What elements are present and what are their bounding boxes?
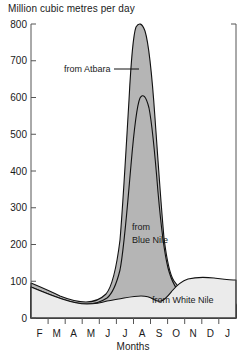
x-tick-label-10: N bbox=[190, 328, 197, 339]
x-tick-label-1: F bbox=[36, 328, 42, 339]
y-tick-label-400: 400 bbox=[10, 166, 27, 177]
y-tick-label-200: 200 bbox=[10, 239, 27, 250]
x-tick-marks bbox=[48, 318, 219, 324]
x-tick-label-8: S bbox=[156, 328, 163, 339]
x-axis-name: Months bbox=[117, 341, 150, 352]
y-tick-label-500: 500 bbox=[10, 129, 27, 140]
x-tick-label-9: O bbox=[172, 328, 180, 339]
y-tick-label-100: 100 bbox=[10, 276, 27, 287]
y-tick-label-800: 800 bbox=[10, 19, 27, 30]
x-tick-label-5: J bbox=[105, 328, 110, 339]
x-tick-label-3: A bbox=[70, 328, 77, 339]
annotation-from-atbara: from Atbara bbox=[64, 64, 111, 74]
y-tick-label-600: 600 bbox=[10, 92, 27, 103]
y-tick-label-0: 0 bbox=[21, 313, 27, 324]
annotation-from-blue-nile-line2: Blue Nile bbox=[132, 235, 168, 245]
x-tick-label-4: M bbox=[87, 328, 95, 339]
y-tick-label-300: 300 bbox=[10, 202, 27, 213]
chart-svg: 800 700 600 500 400 300 200 100 0 F M A … bbox=[0, 0, 241, 352]
annotation-from-blue-nile-line1: from bbox=[132, 222, 150, 232]
x-tick-label-6: J bbox=[122, 328, 127, 339]
x-tick-label-2: M bbox=[52, 328, 60, 339]
x-tick-label-12: J bbox=[225, 328, 230, 339]
chart-root: Million cubic metres per day bbox=[0, 0, 241, 352]
annotation-from-white-nile: from White Nile bbox=[152, 295, 214, 305]
y-tick-marks bbox=[31, 24, 36, 318]
y-tick-label-700: 700 bbox=[10, 55, 27, 66]
x-tick-label-11: D bbox=[207, 328, 214, 339]
x-tick-label-7: A bbox=[139, 328, 146, 339]
